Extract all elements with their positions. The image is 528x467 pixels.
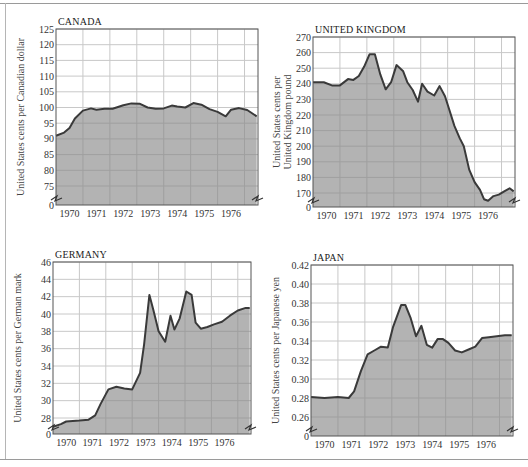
x-tick-labels: 1970197119721973197419751976: [59, 208, 241, 219]
y-tick-label: 36: [41, 343, 51, 354]
x-tick-label: 1971: [341, 439, 361, 450]
x-tick-label: 1972: [368, 439, 388, 450]
x-tick-label: 1976: [476, 439, 496, 450]
area-fill: [53, 292, 250, 435]
chart-title: CANADA: [58, 16, 103, 27]
y-tick-label: 32: [41, 378, 51, 389]
x-tick-label: 1974: [422, 439, 442, 450]
y-tick-label: 120: [39, 39, 54, 50]
y-tick-label: 0.36: [292, 317, 310, 328]
x-tick-label: 1971: [86, 208, 106, 219]
y-tick-label: 170: [296, 188, 311, 199]
x-tick-label: 1976: [478, 210, 498, 221]
x-tick-label: 1972: [370, 210, 390, 221]
x-tick-labels: 1970197119721973197419751976: [316, 210, 498, 221]
y-axis-label-line1: United States cents per: [271, 75, 282, 168]
chart-title: JAPAN: [313, 252, 344, 263]
x-tick-label: 1974: [167, 208, 187, 219]
chart-title: GERMANY: [55, 249, 107, 260]
y-tick-label: 100: [39, 102, 54, 113]
y-tick-label: 28: [41, 413, 51, 424]
chart-canada: 0758085909510010511011512012519701971197…: [15, 16, 263, 219]
y-tick-label: 200: [296, 141, 311, 152]
y-tick-label: 80: [44, 165, 54, 176]
y-tick-label: 0.40: [292, 279, 310, 290]
y-tick-label: 180: [296, 172, 311, 183]
y-tick-label: 0.42: [292, 260, 310, 271]
y-axis-label: United States cents per Japanese yen: [270, 277, 281, 424]
y-tick-label: 42: [41, 291, 51, 302]
x-tick-label: 1970: [56, 437, 76, 448]
y-tick-label: 85: [44, 149, 54, 160]
x-tick-label: 1971: [83, 437, 103, 448]
x-tick-label: 1973: [140, 208, 160, 219]
y-tick-label: 260: [296, 47, 311, 58]
y-tick-label: 270: [296, 32, 311, 43]
y-tick-labels: 0170180190200210220230240250260270: [296, 32, 311, 213]
y-tick-label: 40: [41, 309, 51, 320]
y-tick-label: 230: [296, 94, 311, 105]
y-tick-label: 0: [49, 200, 54, 211]
y-tick-label: 0.32: [292, 355, 310, 366]
x-tick-labels: 1970197119721973197419751976: [56, 437, 234, 448]
exchange-rate-charts: 0758085909510010511011512012519701971197…: [0, 0, 528, 467]
x-tick-label: 1972: [109, 437, 129, 448]
y-tick-label: 220: [296, 110, 311, 121]
chart-united-kingdom: 0170180190200210220230240250260270197019…: [271, 24, 520, 221]
y-tick-label: 34: [41, 361, 51, 372]
y-tick-label: 38: [41, 326, 51, 337]
area-fill: [311, 305, 512, 436]
y-tick-labels: 00.260.280.300.320.340.360.380.400.42: [292, 260, 310, 442]
x-tick-label: 1971: [343, 210, 363, 221]
x-tick-label: 1972: [113, 208, 133, 219]
y-tick-label: 0.38: [292, 298, 310, 309]
x-tick-label: 1974: [162, 437, 182, 448]
x-tick-labels: 1970197119721973197419751976: [314, 439, 496, 450]
y-tick-label: 250: [296, 63, 311, 74]
x-tick-label: 1970: [314, 439, 334, 450]
chart-germany: 0283032343638404244461970197119721973197…: [12, 249, 256, 448]
y-tick-label: 125: [39, 24, 54, 35]
chart-japan: 00.260.280.300.320.340.360.380.400.42197…: [270, 252, 518, 450]
y-tick-label: 0: [304, 431, 309, 442]
y-tick-label: 95: [44, 118, 54, 129]
y-tick-labels: 07580859095100105110115120125: [39, 24, 54, 211]
x-tick-label: 1973: [135, 437, 155, 448]
y-tick-label: 0.30: [292, 374, 310, 385]
x-tick-label: 1976: [221, 208, 241, 219]
y-tick-label: 190: [296, 156, 311, 167]
y-tick-label: 115: [39, 55, 54, 66]
y-tick-label: 75: [44, 181, 54, 192]
y-tick-label: 46: [41, 257, 51, 268]
x-tick-label: 1974: [424, 210, 444, 221]
y-tick-label: 0: [306, 202, 311, 213]
y-tick-label: 90: [44, 133, 54, 144]
y-tick-label: 30: [41, 395, 51, 406]
y-tick-labels: 028303234363840424446: [41, 257, 51, 440]
y-axis-label: United States cents per Canadian dollar: [15, 37, 26, 196]
x-tick-label: 1976: [215, 437, 235, 448]
y-tick-label: 240: [296, 78, 311, 89]
y-tick-label: 0.26: [292, 412, 310, 423]
x-tick-label: 1973: [395, 439, 415, 450]
chart-title: UNITED KINGDOM: [315, 24, 406, 35]
x-tick-label: 1973: [397, 210, 417, 221]
y-tick-label: 110: [39, 71, 54, 82]
x-tick-label: 1975: [451, 210, 471, 221]
x-tick-label: 1975: [188, 437, 208, 448]
y-tick-label: 0.28: [292, 393, 310, 404]
x-tick-label: 1975: [449, 439, 469, 450]
y-tick-label: 105: [39, 86, 54, 97]
x-tick-label: 1975: [194, 208, 214, 219]
y-tick-label: 44: [41, 274, 51, 285]
x-tick-label: 1970: [316, 210, 336, 221]
y-tick-label: 210: [296, 125, 311, 136]
y-tick-label: 0.34: [292, 336, 310, 347]
y-tick-label: 0: [46, 429, 51, 440]
area-fill: [56, 103, 257, 205]
y-axis-label-line2: United Kingdom pound: [282, 75, 293, 170]
y-axis-label: United States cents per German mark: [12, 273, 23, 423]
x-tick-label: 1970: [59, 208, 79, 219]
